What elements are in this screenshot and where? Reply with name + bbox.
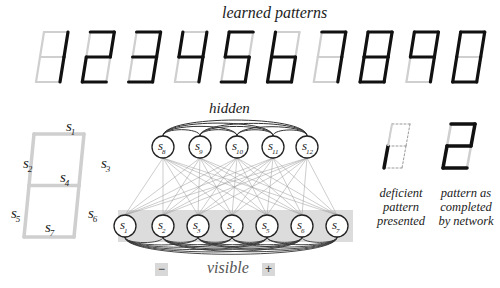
deficient-pattern-digit <box>384 124 410 168</box>
deficient-caption-line: presented <box>368 214 434 228</box>
completed-caption-line: completed <box>433 200 499 214</box>
completed-caption-line: pattern as <box>433 186 499 200</box>
completed-caption-line: by network <box>433 214 499 228</box>
deficient-caption: deficient pattern presented <box>368 186 434 228</box>
completion-example <box>0 0 500 288</box>
deficient-caption-line: deficient <box>368 186 434 200</box>
completed-pattern-digit <box>443 124 475 168</box>
deficient-caption-line: pattern <box>368 200 434 214</box>
completed-caption: pattern as completed by network <box>433 186 499 228</box>
